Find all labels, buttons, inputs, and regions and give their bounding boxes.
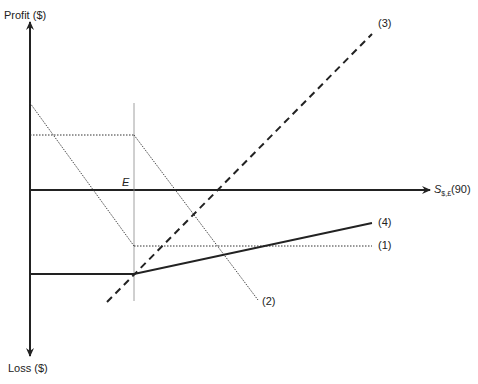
x-axis-label-suffix: (90): [451, 183, 471, 195]
y-axis-bottom-label: Loss ($): [8, 362, 48, 374]
payoff-line-2: [134, 135, 258, 300]
strike-label: E: [122, 176, 129, 188]
line-2-label: (2): [262, 295, 275, 307]
payoff-line-3: [107, 34, 372, 302]
x-axis-label: S$,£(90): [434, 183, 471, 197]
line-1-label: (1): [378, 239, 391, 251]
payoff-line-4: [30, 223, 372, 274]
line-4-label: (4): [378, 216, 391, 228]
y-axis-top-label: Profit ($): [4, 9, 46, 21]
payoff-diagram: [0, 0, 478, 384]
payoff-line-2a: [30, 103, 134, 246]
line-3-label: (3): [378, 17, 391, 29]
x-axis-label-sub: $,£: [441, 190, 451, 197]
